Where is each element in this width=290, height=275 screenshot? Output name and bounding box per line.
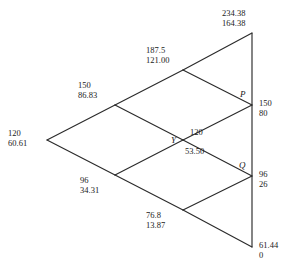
node-root-values: 12060.61 [8,128,27,148]
node-terminal-bottom-value-top: 61.44 [259,240,278,250]
node-mid2-y-value-top: 120 [190,127,203,137]
node-terminal-q-value-top: 96 [259,169,268,179]
node-downdown2-values: 76.813.87 [146,210,165,230]
node-root-value-top: 120 [8,128,27,138]
node-downdown2-value-bottom: 13.87 [146,220,165,230]
node-up1-values: 15086.83 [78,80,97,100]
node-terminal-p-value-bottom: 80 [259,108,272,118]
edge-upup2-termp [183,70,252,105]
node-terminal-p-point-label: P [240,89,246,99]
node-downdown2-value-top: 76.8 [146,210,165,220]
node-terminal-top-values: 234.38164.38 [222,8,245,28]
edge-downdown2-termbottom [183,210,252,247]
node-terminal-q-value-bottom: 26 [259,179,268,189]
node-upup2-values: 187.5121.00 [146,45,169,65]
edge-root-down1 [47,140,115,175]
node-terminal-p-values: 15080 [259,98,272,118]
lattice-edges-svg [0,0,290,275]
edge-down1-downdown2 [115,175,183,210]
edge-up1-upup2 [115,70,183,105]
edge-upup2-termtop [183,33,252,70]
node-up1-value-bottom: 86.83 [78,90,97,100]
binomial-lattice-diagram: 12060.6115086.839634.31187.5121.0012053.… [0,0,290,275]
node-root-value-bottom: 60.61 [8,138,27,148]
node-up1-value-top: 150 [78,80,97,90]
node-upup2-value-bottom: 121.00 [146,55,169,65]
node-upup2-value-top: 187.5 [146,45,169,55]
node-terminal-bottom-values: 61.440 [259,240,278,260]
node-down1-value-bottom: 34.31 [80,185,99,195]
node-mid2-y-point-label: Y [171,135,176,145]
node-terminal-p-value-top: 150 [259,98,272,108]
node-terminal-q-values: 9626 [259,169,268,189]
node-terminal-top-value-top: 234.38 [222,8,245,18]
node-terminal-top-value-bottom: 164.38 [222,18,245,28]
node-down1-values: 9634.31 [80,175,99,195]
node-terminal-q-point-label: Q [239,160,246,170]
node-down1-value-top: 96 [80,175,99,185]
edge-down1-mid2 [115,140,183,175]
node-terminal-bottom-value-bottom: 0 [259,250,278,260]
edge-downdown2-termq [183,176,252,210]
edge-root-up1 [47,105,115,140]
node-mid2-y-value-bottom: 53.50 [185,146,204,156]
